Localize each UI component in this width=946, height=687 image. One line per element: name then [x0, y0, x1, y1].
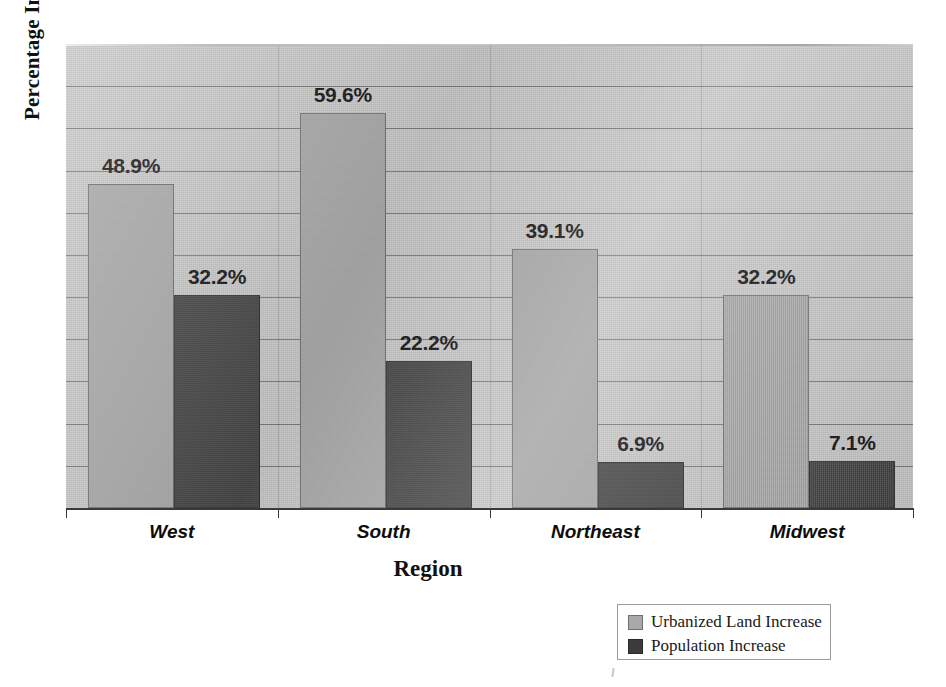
scan-artifact [611, 668, 614, 677]
category-separator [490, 44, 491, 508]
y-axis-title-container: Percentage Increase [14, 0, 62, 520]
legend-swatch-icon-urbanized [628, 615, 643, 630]
x-axis-tick [278, 508, 279, 518]
bar-value-label: 32.2% [711, 265, 821, 289]
bar-northeast-population[interactable] [598, 462, 684, 508]
bar-value-label: 6.9% [586, 432, 696, 456]
bar-value-label: 48.9% [76, 154, 186, 178]
y-axis-title: Percentage Increase [20, 0, 45, 120]
legend-label-population: Population Increase [651, 636, 786, 656]
category-separator [701, 44, 702, 508]
bar-value-label: 32.2% [162, 265, 272, 289]
bar-value-label: 22.2% [374, 331, 484, 355]
bar-northeast-urbanized-land[interactable] [512, 249, 598, 508]
x-axis-title: Region [0, 556, 946, 582]
bar-south-population[interactable] [386, 361, 472, 508]
x-axis-label-midwest: Midwest [701, 521, 913, 543]
bar-midwest-urbanized-land[interactable] [723, 295, 809, 508]
x-axis-label-west: West [66, 521, 278, 543]
bar-midwest-population[interactable] [809, 461, 895, 508]
bar-south-urbanized-land[interactable] [300, 113, 386, 508]
bar-west-population[interactable] [174, 295, 260, 508]
legend-item-urbanized-land-increase[interactable]: Urbanized Land Increase [628, 610, 830, 634]
legend-label-urbanized: Urbanized Land Increase [651, 612, 822, 632]
plot-top-edge [66, 44, 913, 46]
chart-canvas: Percentage Increase WestSouthNortheastMi… [0, 0, 946, 687]
bar-value-label: 59.6% [288, 83, 398, 107]
bar-west-urbanized-land[interactable] [88, 184, 174, 508]
x-axis-label-south: South [278, 521, 490, 543]
bar-value-label: 39.1% [500, 219, 610, 243]
legend-item-population-increase[interactable]: Population Increase [628, 634, 830, 658]
x-axis-label-northeast: Northeast [490, 521, 702, 543]
x-axis-tick [490, 508, 491, 518]
bar-value-label: 7.1% [797, 431, 907, 455]
category-separator [278, 44, 279, 508]
legend-swatch-icon-population [628, 639, 643, 654]
x-axis-tick [701, 508, 702, 518]
chart-legend: Urbanized Land Increase Population Incre… [617, 604, 831, 660]
x-axis-tick [913, 508, 914, 518]
x-axis-tick [66, 508, 67, 518]
